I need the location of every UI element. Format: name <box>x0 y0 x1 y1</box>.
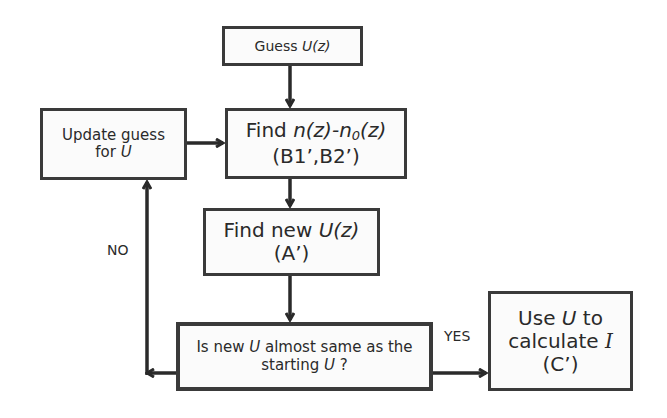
var-n-z: n(z)-n <box>293 118 352 142</box>
node-result: Use U to calculate I (C’) <box>488 291 633 391</box>
result-ref: (C’) <box>543 353 579 376</box>
node-update-line2: for <box>95 143 120 161</box>
node-update-guess: Update guess for U <box>40 108 187 180</box>
result-text-b: to <box>576 306 602 330</box>
decision-text-a: Is new <box>196 338 249 356</box>
result-text-c: calculate <box>508 329 605 353</box>
result-text-a: Use <box>518 306 562 330</box>
decision-text-d: ? <box>335 356 348 374</box>
decision-text-b: almost same as the <box>260 338 412 356</box>
node-find-u-prefix: Find new <box>224 218 319 242</box>
node-find-n-ref: (B1’,B2’) <box>272 145 360 168</box>
node-decision: Is new U almost same as the starting U ? <box>176 322 433 391</box>
node-find-new-u: Find new U(z) (A’) <box>203 208 380 276</box>
edge-label-yes: YES <box>444 328 470 344</box>
node-guess-text: Guess <box>255 38 302 54</box>
node-update-line1: Update guess <box>62 127 165 144</box>
var-u: U <box>324 356 335 374</box>
var-i: I <box>605 329 613 353</box>
var-u-z: U(z) <box>302 38 331 54</box>
node-find-n: Find n(z)-n0(z) (B1’,B2’) <box>225 108 407 179</box>
var-u: U <box>249 338 260 356</box>
var-u: U <box>562 306 577 330</box>
var-u-z: U(z) <box>319 218 360 242</box>
edge-label-no: NO <box>107 242 129 258</box>
node-guess: Guess U(z) <box>222 26 363 66</box>
node-find-u-ref: (A’) <box>274 242 310 265</box>
node-find-n-prefix: Find <box>246 118 293 142</box>
var-z: (z) <box>360 118 386 142</box>
decision-text-c: starting <box>261 356 324 374</box>
subscript-0: 0 <box>352 129 360 144</box>
var-u: U <box>121 143 132 161</box>
